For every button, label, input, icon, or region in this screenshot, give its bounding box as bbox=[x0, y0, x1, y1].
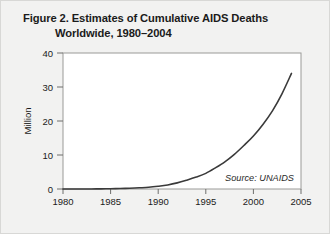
x-tick-label-1985: 1985 bbox=[100, 196, 121, 207]
x-axis-tick-labels: 1980 1985 1990 1995 2000 2005 bbox=[52, 196, 311, 207]
source-annotation: Source: UNAIDS bbox=[225, 173, 295, 183]
y-axis-title: Million bbox=[22, 108, 33, 135]
y-tick-label-10: 10 bbox=[42, 150, 53, 161]
x-tick-label-1995: 1995 bbox=[195, 196, 216, 207]
x-axis-ticks bbox=[63, 189, 301, 194]
y-axis-ticks bbox=[57, 53, 63, 189]
x-tick-label-2000: 2000 bbox=[243, 196, 264, 207]
line-chart-svg: 40 30 20 10 0 Million 1980 1985 bbox=[1, 1, 330, 234]
x-tick-label-2005: 2005 bbox=[290, 196, 311, 207]
y-tick-label-30: 30 bbox=[42, 82, 53, 93]
figure-container: Figure 2. Estimates of Cumulative AIDS D… bbox=[0, 0, 330, 234]
y-tick-label-20: 20 bbox=[42, 116, 53, 127]
y-tick-label-0: 0 bbox=[48, 184, 53, 195]
y-tick-label-40: 40 bbox=[42, 48, 53, 59]
y-axis-tick-labels: 40 30 20 10 0 bbox=[42, 48, 53, 195]
x-tick-label-1980: 1980 bbox=[52, 196, 73, 207]
chart-plot-area: 40 30 20 10 0 Million 1980 1985 bbox=[1, 1, 330, 234]
x-tick-label-1990: 1990 bbox=[148, 196, 169, 207]
